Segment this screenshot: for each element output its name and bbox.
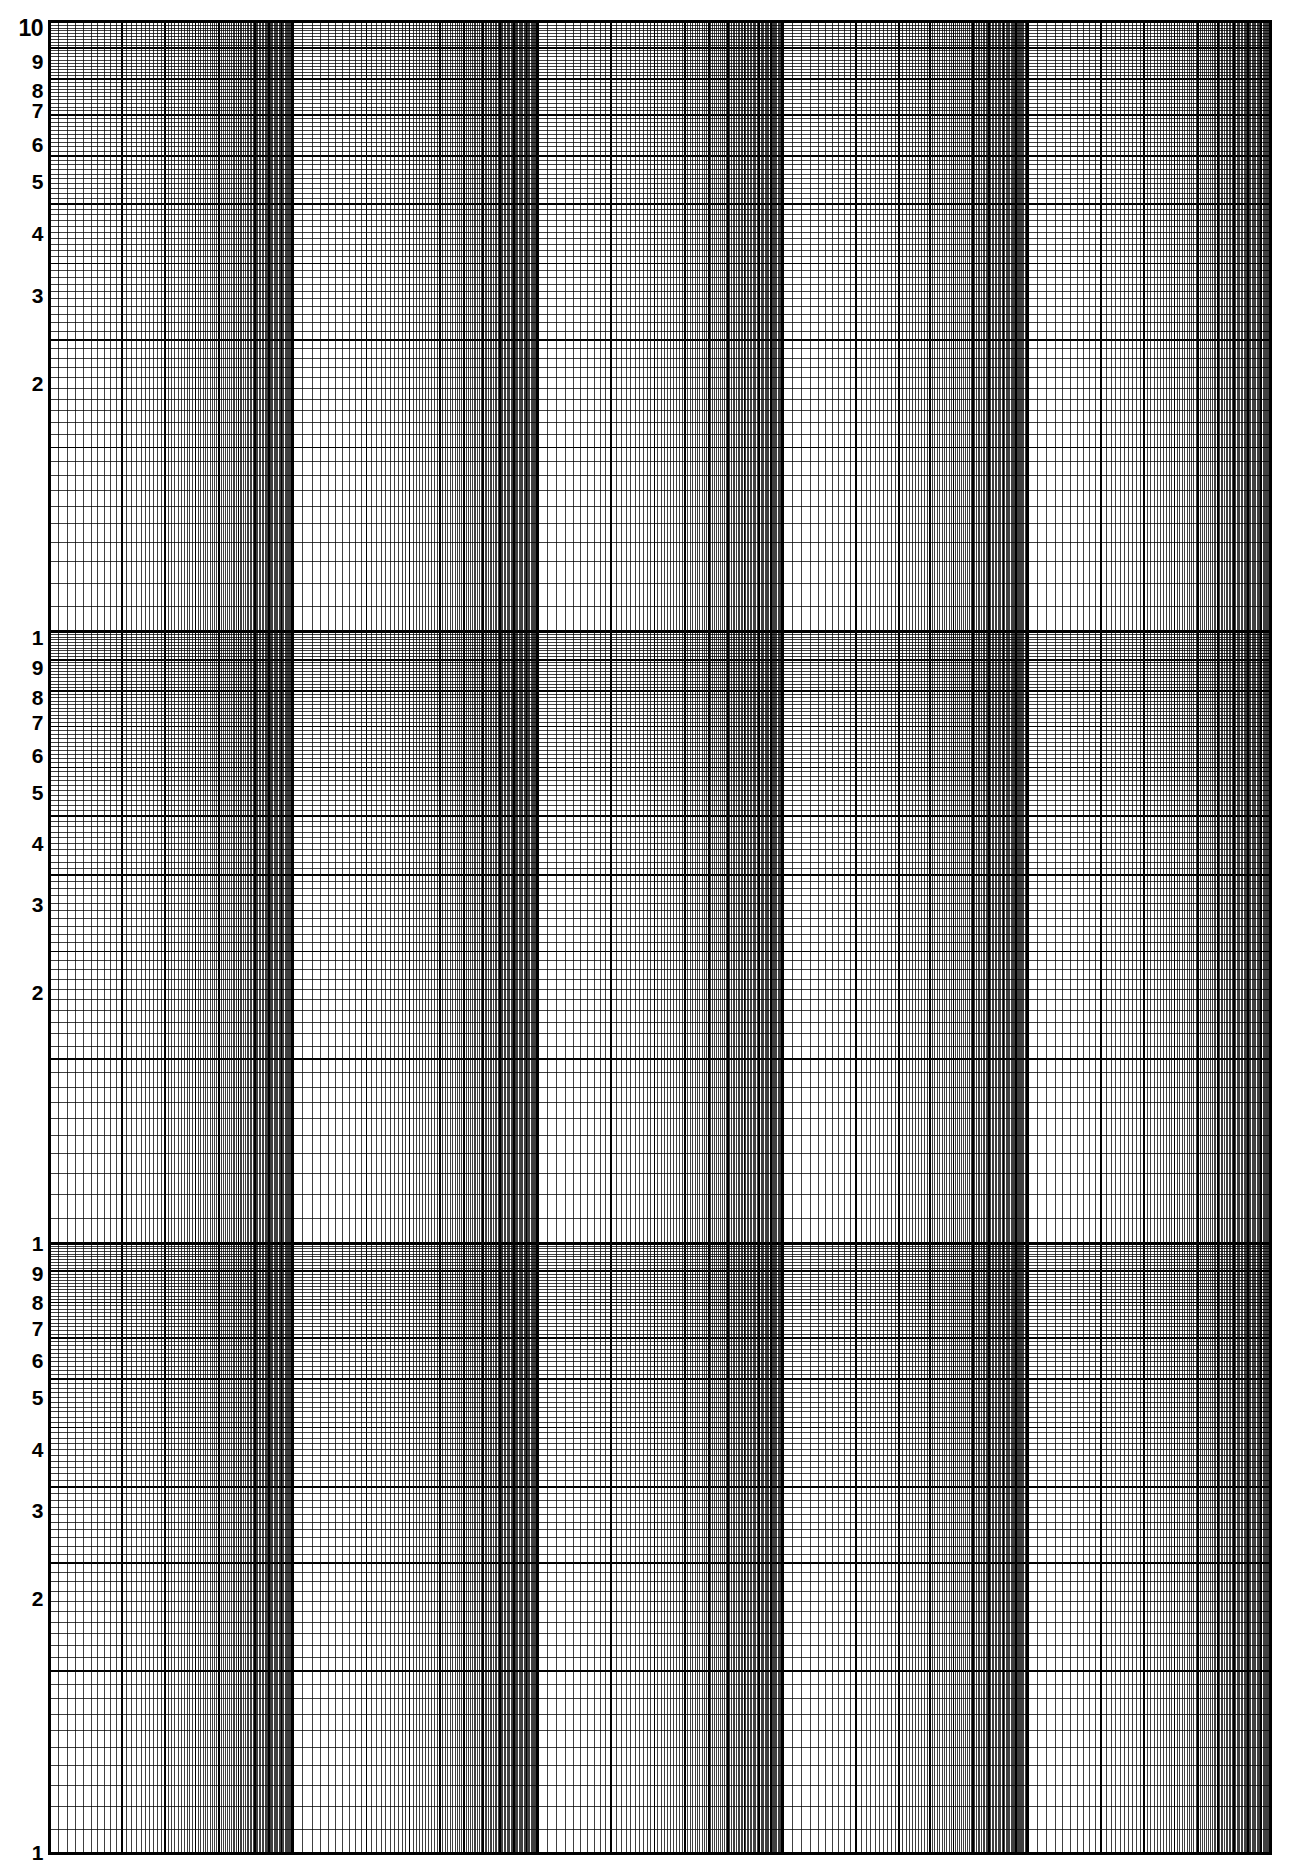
grid-svg [48,20,1272,1855]
y-axis-tick-label: 4 [32,223,43,244]
y-axis-tick-label: 8 [32,687,43,708]
y-axis-tick-label: 1 [32,1842,43,1863]
y-axis-tick-label: 3 [32,894,43,915]
grid-plot-area [48,20,1272,1855]
y-axis-tick-label: 9 [32,657,43,678]
y-axis-tick-label: 4 [32,833,43,854]
y-axis-label-column: 10987654321987654321987654321 [0,0,48,1869]
y-axis-tick-label: 2 [32,373,43,394]
y-axis-tick-label: 6 [32,134,43,155]
y-axis-tick-label: 8 [32,80,43,101]
y-axis-tick-label: 7 [32,712,43,733]
y-axis-tick-label: 2 [32,1588,43,1609]
y-axis-tick-label: 4 [32,1439,43,1460]
log-log-graph-paper: 10987654321987654321987654321 [0,0,1305,1869]
y-axis-tick-label: 3 [32,1500,43,1521]
y-axis-tick-label: 6 [32,745,43,766]
y-axis-tick-label: 1 [32,627,43,648]
y-axis-tick-label: 5 [32,782,43,803]
y-axis-tick-label: 7 [32,1318,43,1339]
y-axis-tick-label: 10 [18,17,43,40]
y-axis-tick-label: 8 [32,1292,43,1313]
y-axis-tick-label: 2 [32,982,43,1003]
y-axis-tick-label: 5 [32,1387,43,1408]
y-axis-tick-label: 3 [32,285,43,306]
y-axis-tick-label: 7 [32,100,43,121]
y-axis-tick-label: 6 [32,1350,43,1371]
y-axis-tick-label: 9 [32,51,43,72]
y-axis-tick-label: 9 [32,1263,43,1284]
y-axis-tick-label: 5 [32,171,43,192]
y-axis-tick-label: 1 [32,1233,43,1254]
